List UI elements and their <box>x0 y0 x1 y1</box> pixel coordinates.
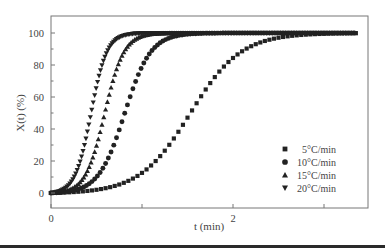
data-point <box>87 164 92 169</box>
data-point <box>258 40 262 44</box>
data-point <box>158 154 162 158</box>
data-point <box>222 64 226 68</box>
x-tick-label: 2 <box>230 213 235 224</box>
legend-item: 15°C/min <box>282 170 336 181</box>
data-point <box>98 68 103 73</box>
data-point <box>149 163 153 167</box>
data-point <box>103 107 108 112</box>
data-point <box>117 127 122 132</box>
page-bottom-rule <box>0 245 385 248</box>
data-point <box>208 81 212 85</box>
data-point <box>107 92 112 97</box>
data-point <box>99 63 104 68</box>
data-point <box>231 56 235 60</box>
data-point <box>78 160 83 165</box>
data-point <box>104 186 108 190</box>
data-point <box>190 108 194 112</box>
data-point <box>88 115 93 120</box>
data-point <box>109 149 114 154</box>
axis-ticks: 02040608010002 <box>28 28 324 224</box>
data-point <box>167 143 171 147</box>
x-axis-label: t (min) <box>194 220 225 233</box>
data-point <box>204 87 208 91</box>
data-point <box>154 159 158 163</box>
data-point <box>114 135 119 140</box>
data-point <box>83 136 88 141</box>
data-point <box>99 122 104 127</box>
square-icon <box>283 147 288 152</box>
data-point <box>240 49 244 53</box>
data-point <box>117 182 121 186</box>
legend-label: 20°C/min <box>297 183 336 194</box>
data-point <box>245 46 249 50</box>
data-point <box>113 184 117 188</box>
data-point <box>213 75 217 79</box>
data-point <box>85 130 90 135</box>
data-point <box>76 164 81 169</box>
y-tick-label: 60 <box>34 92 45 103</box>
data-point <box>176 130 180 134</box>
data-point <box>94 188 98 192</box>
data-point <box>195 101 199 105</box>
legend-label: 5°C/min <box>302 144 336 155</box>
data-point <box>114 67 119 72</box>
data-point <box>199 94 203 98</box>
data-point <box>85 189 89 193</box>
legend: 5°C/min10°C/min15°C/min20°C/min <box>282 144 336 194</box>
data-point <box>86 122 91 127</box>
triangle-down-icon <box>282 186 288 191</box>
data-point <box>98 129 103 134</box>
data-point <box>128 94 133 99</box>
data-point <box>96 136 101 141</box>
data-point <box>133 79 138 84</box>
data-point <box>136 72 141 77</box>
data-point <box>140 171 144 175</box>
y-tick-label: 100 <box>28 28 44 39</box>
data-point <box>98 170 103 175</box>
y-tick-label: 0 <box>39 188 44 199</box>
y-tick-label: 80 <box>34 60 45 71</box>
data-point <box>120 119 125 124</box>
data-point <box>92 93 97 98</box>
data-point <box>94 86 99 91</box>
data-point <box>276 36 280 40</box>
data-point <box>90 155 95 160</box>
data-point <box>88 160 93 165</box>
circle-icon <box>282 159 288 165</box>
data-point <box>99 187 103 191</box>
data-point <box>103 161 108 166</box>
x-tick-label: 0 <box>48 213 53 224</box>
data-point <box>95 80 100 85</box>
data-point <box>181 123 185 127</box>
data-point <box>144 167 148 171</box>
legend-label: 10°C/min <box>297 157 336 168</box>
data-point <box>101 59 106 64</box>
data-point <box>82 143 87 148</box>
legend-item: 5°C/min <box>283 144 336 155</box>
data-point <box>235 52 239 56</box>
data-point <box>217 69 221 73</box>
data-point <box>112 72 117 77</box>
data-point <box>249 44 253 48</box>
legend-item: 20°C/min <box>282 183 336 194</box>
data-point <box>91 100 96 105</box>
data-point <box>92 149 97 154</box>
data-point <box>101 115 106 120</box>
data-point <box>106 156 111 161</box>
data-point <box>141 61 146 66</box>
data-point <box>144 56 149 61</box>
data-point <box>131 176 135 180</box>
data-point <box>96 74 101 79</box>
legend-label: 15°C/min <box>297 170 336 181</box>
data-point <box>79 155 84 160</box>
data-point <box>226 60 230 64</box>
data-point <box>102 55 107 60</box>
data-point <box>116 62 121 67</box>
data-point <box>135 174 139 178</box>
data-point <box>100 166 105 171</box>
y-tick-label: 40 <box>34 124 45 135</box>
data-point <box>281 35 285 39</box>
data-point <box>254 42 258 46</box>
data-point <box>125 102 130 107</box>
data-point <box>108 85 113 90</box>
